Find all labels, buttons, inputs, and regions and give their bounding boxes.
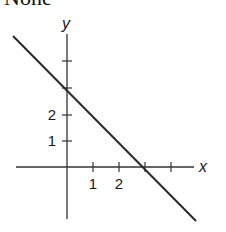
x-axis-label: x bbox=[198, 158, 208, 175]
y-tick-label: 1 bbox=[48, 132, 56, 149]
x-tick-label: 2 bbox=[115, 175, 123, 192]
data-line bbox=[13, 36, 196, 221]
x-tick-label: 1 bbox=[89, 175, 97, 192]
line-graph: 1 2 1 2 x y bbox=[0, 0, 226, 232]
y-axis-label: y bbox=[61, 15, 71, 32]
y-tick-label: 2 bbox=[48, 106, 56, 123]
